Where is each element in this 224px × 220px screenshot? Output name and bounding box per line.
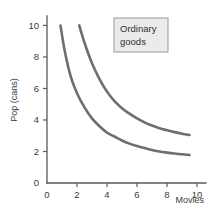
x-tick-label: 2	[74, 189, 79, 200]
y-tick-label: 10	[28, 20, 39, 31]
x-tick-label: 8	[164, 189, 169, 200]
x-tick-label: 6	[134, 189, 139, 200]
indifference-curve-chart: 0246810 0246810 Pop (cans) Movies Ordina…	[0, 0, 224, 220]
y-tick-label: 2	[34, 146, 39, 157]
y-tick-label: 0	[34, 177, 39, 188]
y-tick-label: 8	[34, 51, 39, 62]
y-axis-tick-labels: 0246810	[28, 20, 39, 189]
y-tick-label: 4	[34, 114, 39, 125]
annotation-line-2: goods	[120, 36, 146, 47]
x-axis-title: Movies	[175, 195, 204, 205]
x-tick-label: 0	[44, 189, 49, 200]
chart-svg: 0246810 0246810 Pop (cans) Movies Ordina…	[0, 0, 224, 220]
y-axis-title: Pop (cans)	[9, 78, 19, 122]
x-tick-label: 4	[104, 189, 109, 200]
y-tick-label: 6	[34, 83, 39, 94]
annotation-line-1: Ordinary	[120, 23, 157, 34]
ordinary-goods-annotation: Ordinary goods	[114, 18, 168, 52]
